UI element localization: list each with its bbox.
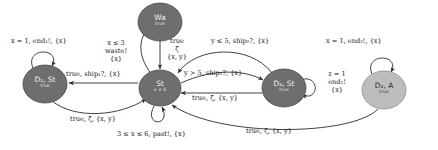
- edge-label-line: y > 5, ship₂?, {x}: [184, 70, 242, 78]
- edge-label-d2a-st: true, ζ, {x, y}: [246, 128, 292, 136]
- edge-label-line: {x, y}: [163, 54, 191, 62]
- edge-label-line: true, ζ, {x, y}: [70, 116, 116, 124]
- edge-label-d2st-st-top: y ≤ 5, ship₂?, {x}: [211, 38, 269, 46]
- edge-label-d1st-self: x = 1, end₁!, {x}: [11, 38, 67, 46]
- edge-label-line: x = 1, end₂!, {x}: [326, 38, 382, 46]
- edge-label-line: y ≤ 5, ship₂?, {x}: [211, 38, 269, 46]
- node-d2st[interactable]: [262, 69, 306, 107]
- node-wa[interactable]: [138, 3, 182, 41]
- node-d1st[interactable]: [23, 65, 67, 103]
- edge-label-line: true, ζ, {x, y}: [192, 95, 238, 103]
- node-st[interactable]: [139, 70, 181, 106]
- edge-label-d2st-self: z = 1 end₂! {x}: [323, 71, 351, 94]
- edge-label-st-self: 3 ≤ x ≤ 6, past!, {x}: [117, 131, 186, 139]
- edge-label-line: x = 1, end₁!, {x}: [11, 38, 67, 46]
- edge-label-line: {x}: [323, 87, 351, 95]
- edge-label-wa-st: true ζ {x, y}: [163, 38, 191, 61]
- edge-label-d1st-st: true, ζ, {x, y}: [70, 116, 116, 124]
- edge-label-line: {x}: [101, 56, 131, 64]
- edge-label-st-d1st: true, ship₁?, {x}: [66, 71, 121, 79]
- node-d2a[interactable]: [362, 71, 406, 109]
- edge-label-line: true, ship₁?, {x}: [66, 71, 121, 79]
- edge-label-st-wa: x ≤ 3 waste! {x}: [101, 40, 131, 63]
- edge-label-line: 3 ≤ x ≤ 6, past!, {x}: [117, 131, 186, 139]
- edge-label-line: true, ζ, {x, y}: [246, 128, 292, 136]
- edge-label-d2a-self: x = 1, end₂!, {x}: [326, 38, 382, 46]
- edge-label-st-d2st: y > 5, ship₂?, {x}: [184, 70, 242, 78]
- edge-label-d2st-st: true, ζ, {x, y}: [192, 95, 238, 103]
- state-diagram: Wa true D₁, St true St x ≤ 6 D₂, St true…: [0, 0, 438, 150]
